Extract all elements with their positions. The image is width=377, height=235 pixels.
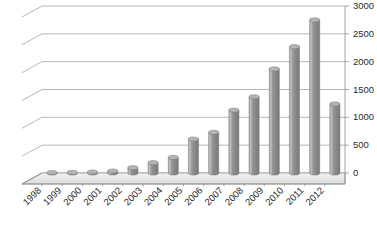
y-axis-tick-label: 0 [353,167,358,178]
bar-1998 [47,170,57,175]
bar-2002 [128,166,138,175]
bar-2009 [269,67,279,175]
x-axis-tick-label: 1999 [41,185,64,208]
bar-2011 [310,18,320,175]
bar-1999 [67,170,77,175]
x-axis-tick-label: 2006 [182,185,205,208]
bar-2007 [229,108,239,175]
bar-chart: 050010001500200025003000 199819992000200… [0,0,377,235]
y-axis-tick-label: 1000 [353,111,374,122]
bar-2004 [168,155,178,175]
x-axis-tick-label: 1998 [20,185,43,208]
bar-2005 [188,137,198,175]
bar-2003 [148,161,158,175]
x-axis-tick-label: 2007 [202,185,225,208]
x-axis-tick-label: 2012 [303,185,326,208]
bars-group [47,18,340,175]
bar-2008 [249,95,259,175]
x-axis-tick-label: 2000 [61,185,84,208]
y-axis-tick-label: 2500 [353,28,374,39]
y-axis-tick-label: 1500 [353,84,374,95]
bar-2006 [209,130,219,175]
x-axis-tick-label: 2002 [101,185,124,208]
x-axis-tick-label: 2009 [243,185,266,208]
x-axis-tick-label: 2010 [263,185,286,208]
y-axis: 050010001500200025003000 [345,0,374,184]
chart-canvas: 050010001500200025003000 199819992000200… [0,0,377,235]
x-axis-tick-label: 2011 [283,185,305,207]
y-axis-tick-label: 500 [353,139,369,150]
x-axis-tick-label: 2003 [121,185,144,208]
bar-2000 [87,170,97,175]
y-axis-tick-label: 2000 [353,56,374,67]
bar-2010 [289,45,299,176]
bar-2001 [108,169,118,175]
bar-2012 [330,102,340,175]
x-axis-tick-label: 2001 [81,185,104,208]
x-axis-tick-label: 2004 [142,185,165,208]
y-axis-tick-label: 3000 [353,0,374,11]
x-axis-tick-label: 2008 [222,185,245,208]
x-axis-tick-label: 2005 [162,185,185,208]
